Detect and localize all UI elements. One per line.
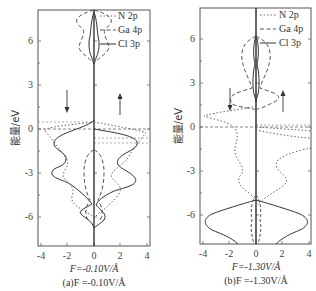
- cl3p-spin-down-curve-b: [205, 200, 256, 244]
- x-tick-m2-a: -2: [63, 250, 71, 261]
- y-axis-label-a: 能量/eV: [9, 110, 21, 147]
- cl3p-upper-left-a: [89, 12, 94, 64]
- arrow-down-head-a: [65, 107, 70, 113]
- x-axis-label-a: F=-0.10V/Å: [69, 263, 120, 274]
- cl3p-spin-up-curve-b: [256, 200, 308, 244]
- caption-b: (b)F =-1.30V/Å: [224, 275, 288, 287]
- x-tick-m4-a: -4: [37, 250, 45, 261]
- cl3p-spin-down-curve-a: [52, 120, 94, 228]
- y-tick-6-a: 6: [28, 35, 33, 46]
- x-tick-4-a: 4: [145, 250, 150, 261]
- legend-n2p-a: N 2p: [118, 10, 138, 21]
- y-tick-m6-b: -6: [187, 209, 195, 220]
- legend-a: N 2p Ga 4p Cl 3p: [100, 10, 142, 49]
- arrow-up-head-b: [281, 90, 286, 96]
- x-tick-m4-b: -4: [199, 248, 207, 259]
- y-tick-0-a: 0: [28, 123, 33, 134]
- ga4p-lower-left-a: [84, 150, 94, 220]
- y-tick-3-b: 3: [190, 77, 195, 88]
- n2p-spin-down-curve-a: [44, 122, 94, 218]
- x-tick-0-b: 0: [254, 248, 259, 259]
- y-axis-label-b: 能量/eV: [172, 108, 184, 145]
- legend-cl3p-b: Cl 3p: [279, 37, 301, 48]
- legend-b: N 2p Ga 4p Cl 3p: [260, 9, 303, 48]
- y-tick-3-a: 3: [28, 79, 33, 90]
- legend-cl3p-a: Cl 3p: [118, 38, 140, 49]
- ga4p-upper-left-a: [77, 10, 94, 62]
- x-tick-2-b: 2: [280, 248, 285, 259]
- n2p-spin-up-curve-a: [94, 122, 146, 218]
- ga4p-upper-right-a: [94, 10, 111, 62]
- cl3p-spin-up-curve-a: [94, 129, 137, 228]
- ga4p-upper-left-b: [231, 36, 256, 110]
- n2p-spin-down-curve-b: [204, 106, 256, 200]
- figure: 6 3 0 -3 -6 -4 -2 0 2 4 能量/eV: [0, 0, 316, 291]
- n2p-spin-up-curve-b: [256, 127, 311, 206]
- y-tick-0-b: 0: [190, 121, 195, 132]
- x-tick-m2-b: -2: [225, 248, 233, 259]
- y-tick-m3-b: -3: [187, 165, 195, 176]
- legend-ga4p-b: Ga 4p: [279, 23, 303, 34]
- y-tick-6-b: 6: [190, 33, 195, 44]
- panel-b: 6 3 0 -3 -6 -4 -2 0 2 4 能量/eV: [172, 8, 312, 287]
- cl3p-upper-right-a: [94, 12, 99, 64]
- x-tick-0-a: 0: [92, 250, 97, 261]
- legend-n2p-b: N 2p: [279, 9, 299, 20]
- ga4p-lower-right-a: [94, 150, 104, 220]
- x-tick-4-b: 4: [307, 248, 312, 259]
- panel-a: 6 3 0 -3 -6 -4 -2 0 2 4 能量/eV: [9, 10, 150, 289]
- x-axis-label-b: F=-1.30V/Å: [231, 261, 282, 272]
- legend-ga4p-a: Ga 4p: [118, 24, 142, 35]
- y-tick-m6-a: -6: [25, 211, 33, 222]
- caption-a: (a)F =-0.10V/Å: [63, 277, 127, 289]
- y-tick-m3-a: -3: [25, 167, 33, 178]
- x-tick-2-a: 2: [118, 250, 123, 261]
- arrow-up-head-a: [118, 93, 123, 99]
- ga4p-upper-right-b: [256, 36, 279, 110]
